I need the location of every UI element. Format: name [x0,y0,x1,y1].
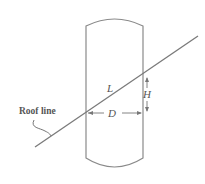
label-l: L [106,82,113,94]
arrowhead-right-icon [137,111,142,115]
label-d: D [107,107,116,119]
arrowhead-up-icon [145,77,149,82]
label-roof-line: Roof line [19,106,56,116]
roof-line-leader [33,120,51,136]
arrowhead-left-icon [88,111,93,115]
roof-diagram: D H L Roof line [0,0,205,184]
arrowhead-down-icon [145,107,149,112]
roof-line [35,36,198,147]
label-h: H [142,88,152,100]
